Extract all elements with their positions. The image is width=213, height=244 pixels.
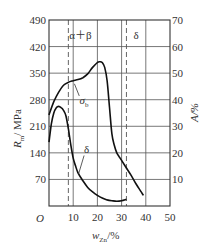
y-right-tick-label: 10 [172, 173, 184, 185]
x-tick-label: 40 [140, 211, 152, 223]
y-right-axis-label: A/% [188, 103, 200, 123]
x-tick-label: 20 [92, 211, 104, 223]
x-axis-ticks: 1020304050 [68, 211, 176, 223]
y-right-tick-label: 40 [172, 94, 184, 106]
y-left-tick-label: 280 [30, 94, 47, 106]
x-tick-label: 30 [116, 211, 128, 223]
y-left-tick-label: 210 [30, 120, 47, 132]
y-left-tick-label: 420 [30, 41, 47, 53]
x-tick-label: 50 [165, 211, 177, 223]
y-right-tick-label: 30 [172, 120, 184, 132]
series-labels: σbδ [74, 84, 89, 174]
sigma-b-label: σb [79, 94, 88, 109]
y-left-axis-ticks: 70140210280350420490 [30, 14, 47, 185]
chart-figure: 1020304050 70140210280350420490 10203040… [0, 0, 213, 244]
y-right-tick-label: 60 [172, 41, 184, 53]
x-tick-label: 10 [68, 211, 80, 223]
y-left-tick-label: 350 [30, 67, 47, 79]
region-labels: α＋βδ [69, 29, 138, 41]
data-series [49, 62, 143, 201]
origin-label: O [36, 212, 44, 224]
y-right-tick-label: 70 [172, 14, 184, 26]
x-axis-label: wZn/% [92, 229, 119, 244]
delta-leader-line [79, 156, 85, 175]
y-right-tick-label: 20 [172, 147, 184, 159]
y-left-tick-label: 140 [30, 147, 47, 159]
y-left-tick-label: 490 [30, 14, 47, 26]
series-line-strength [49, 62, 143, 196]
y-right-tick-label: 50 [172, 67, 184, 79]
region-label: δ [134, 29, 139, 41]
y-left-axis-label: Rm/ MPa [11, 109, 26, 149]
y-right-axis-ticks: 10203040506070 [172, 14, 184, 185]
region-label: α＋β [69, 29, 92, 41]
delta-label: δ [84, 143, 89, 155]
y-left-tick-label: 70 [35, 173, 47, 185]
